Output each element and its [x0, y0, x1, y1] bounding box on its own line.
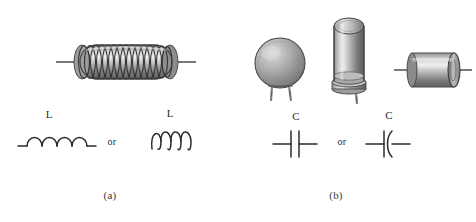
capacitor-symbol-parallel-plate	[273, 131, 317, 157]
disc-ceramic-capacitor-photo	[255, 38, 305, 101]
panel-b-or-label: or	[328, 136, 356, 147]
axial-capacitor-photo	[394, 53, 472, 87]
panel-b-caption: (b)	[316, 189, 356, 201]
electrolytic-capacitor-photo	[332, 18, 366, 104]
capacitor-symbol-label-right: C	[377, 109, 401, 121]
component-figure: L or L C or C (a) (b)	[0, 0, 476, 222]
inductor-symbol-looped	[152, 132, 191, 150]
inductor-symbol-label-right: L	[158, 107, 182, 119]
inductor-symbol-label-left: L	[37, 108, 61, 120]
capacitor-symbol-label-left: C	[284, 110, 308, 122]
figure-artwork	[0, 0, 476, 222]
panel-a-or-label: or	[98, 136, 126, 147]
panel-a-caption: (a)	[90, 189, 130, 201]
inductor-symbol-humped	[18, 138, 96, 147]
capacitor-symbol-curved-plate	[366, 131, 410, 157]
inductor-coil-photo	[56, 45, 196, 79]
